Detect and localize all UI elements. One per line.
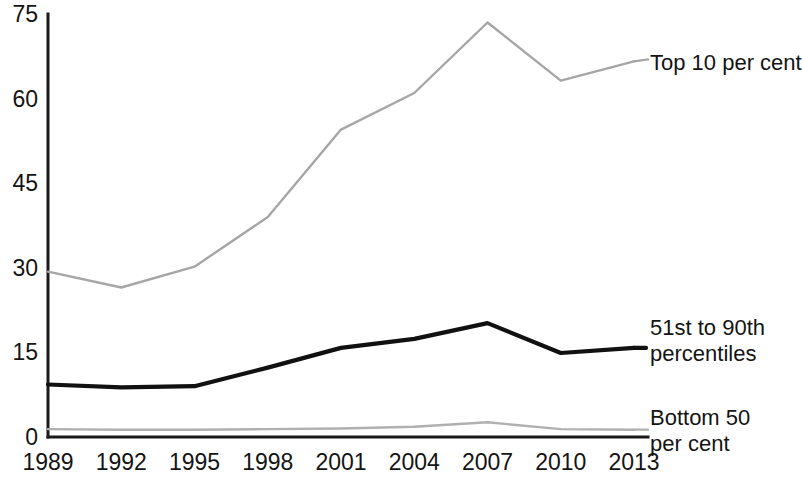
x-tick-label: 1998 bbox=[242, 449, 293, 475]
series-label-bottom-50-line2: per cent bbox=[650, 431, 750, 457]
y-axis-tick-labels: 75604530150 bbox=[12, 1, 38, 450]
series-line-top-10 bbox=[48, 23, 634, 288]
x-tick-label: 2004 bbox=[389, 449, 440, 475]
series-label-bottom-50: Bottom 50 per cent bbox=[650, 405, 750, 457]
x-axis-tick-labels: 198919921995199820012004200720102013 bbox=[22, 449, 659, 475]
y-tick-label: 30 bbox=[12, 255, 38, 281]
x-tick-label: 1992 bbox=[96, 449, 147, 475]
x-tick-label: 2010 bbox=[535, 449, 586, 475]
series-label-top-10-text: Top 10 per cent bbox=[650, 50, 802, 75]
x-tick-label: 1995 bbox=[169, 449, 220, 475]
series-label-51st-to-90th: 51st to 90th percentiles bbox=[650, 315, 765, 367]
y-tick-label: 60 bbox=[12, 86, 38, 112]
series-line-51st-to-90th bbox=[48, 323, 634, 387]
x-tick-label: 1989 bbox=[22, 449, 73, 475]
series-line-bottom-50 bbox=[48, 422, 634, 429]
y-tick-label: 75 bbox=[12, 1, 38, 27]
series-label-bottom-50-line1: Bottom 50 bbox=[650, 405, 750, 431]
series-label-51st-to-90th-line2: percentiles bbox=[650, 341, 765, 367]
leader-line-top-10 bbox=[634, 59, 648, 61]
x-tick-label: 2001 bbox=[315, 449, 366, 475]
x-tick-label: 2007 bbox=[462, 449, 513, 475]
series-label-top-10: Top 10 per cent bbox=[650, 50, 802, 76]
series-label-51st-to-90th-line1: 51st to 90th bbox=[650, 315, 765, 341]
y-tick-label: 45 bbox=[12, 170, 38, 196]
y-tick-label: 15 bbox=[12, 339, 38, 365]
y-tick-label: 0 bbox=[25, 424, 38, 450]
